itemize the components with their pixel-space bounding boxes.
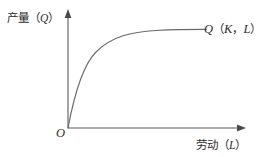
x-axis — [68, 125, 246, 132]
y-axis-label-paren-close: ） — [48, 12, 59, 24]
x-axis-label: 劳动（L） — [196, 136, 246, 152]
y-axis-arrowhead-icon — [65, 9, 72, 18]
y-axis-label-text: 产量 — [7, 12, 29, 24]
x-axis-arrowhead-icon — [237, 125, 246, 132]
y-axis — [65, 9, 72, 128]
x-axis-label-paren-close: ） — [235, 139, 246, 151]
curve-label: Q（K，L） — [204, 20, 261, 37]
y-axis-label: 产量（Q） — [7, 9, 59, 25]
origin-label: O — [56, 126, 65, 141]
curve-label-name: Q — [204, 22, 213, 36]
x-axis-label-paren-open: （ — [218, 139, 229, 151]
curve-label-paren-close: ） — [250, 23, 261, 35]
y-axis-label-paren-open: （ — [29, 12, 40, 24]
curve-label-paren-open: （ — [213, 23, 224, 35]
production-function-curve — [68, 29, 206, 128]
production-function-figure: 产量（Q） 劳动（L） Q（K，L） O — [0, 0, 277, 157]
curve-label-comma: ， — [232, 23, 243, 35]
x-axis-label-text: 劳动 — [196, 139, 218, 151]
